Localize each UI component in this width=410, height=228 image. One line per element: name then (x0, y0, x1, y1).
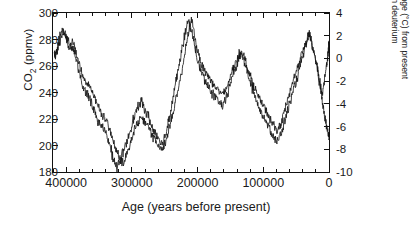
tick-mark (324, 126, 329, 127)
y-axis-right-label: Temperature change (°C) from present bas… (389, 0, 408, 104)
x-tick-label: 100000 (242, 176, 284, 190)
plot-area (52, 12, 330, 173)
tick-mark (92, 13, 93, 16)
tick-mark (79, 13, 80, 16)
y-tick-label-right: -4 (336, 98, 364, 110)
tick-mark (223, 13, 224, 16)
tick-mark (276, 169, 277, 172)
tick-mark (237, 169, 238, 172)
y-tick-label-right: -2 (336, 75, 364, 87)
tick-mark (302, 13, 303, 16)
tick-mark (197, 13, 198, 16)
tick-mark (118, 13, 119, 16)
y-tick-label-left: 300 (12, 7, 58, 19)
tick-mark (210, 13, 211, 16)
tick-mark (158, 169, 159, 172)
tick-mark (131, 169, 132, 172)
tick-mark (79, 169, 80, 172)
tick-mark (184, 13, 185, 16)
y-tick-label-right: 0 (336, 52, 364, 64)
tick-mark (197, 169, 198, 172)
tick-mark (250, 13, 251, 16)
tick-mark (302, 169, 303, 172)
tick-mark (324, 58, 329, 59)
tick-mark (171, 169, 172, 172)
data-curves (53, 13, 329, 172)
tick-mark (105, 169, 106, 172)
tick-mark (276, 13, 277, 16)
y-axis-right-label-line1: Temperature change (°C) from present (399, 0, 409, 104)
tick-mark (289, 13, 290, 16)
y-tick-label-right: -6 (336, 121, 364, 133)
tick-mark (324, 81, 329, 82)
y-tick-label-right: -10 (336, 166, 364, 178)
y-tick-label-right: -8 (336, 143, 364, 155)
y-tick-label-left: 200 (12, 140, 58, 152)
y-tick-label-left: 220 (12, 113, 58, 125)
x-axis-label: Age (years before present) (0, 200, 392, 214)
tick-mark (131, 13, 132, 16)
tick-mark (263, 13, 264, 16)
tick-mark (315, 169, 316, 172)
tick-mark (92, 169, 93, 172)
tick-mark (53, 13, 54, 16)
tick-mark (223, 169, 224, 172)
tick-mark (237, 13, 238, 16)
tick-mark (158, 13, 159, 16)
y-tick-label-left: 260 (12, 60, 58, 72)
y-axis-right-label-line2: based on deuterium (389, 0, 399, 104)
tick-mark (289, 169, 290, 172)
y-tick-label-right: 4 (336, 7, 364, 19)
tick-mark (171, 13, 172, 16)
tick-mark (184, 169, 185, 172)
series-line (54, 17, 329, 166)
series-line (54, 19, 329, 172)
y-tick-label-left: 240 (12, 87, 58, 99)
tick-mark (66, 13, 67, 16)
tick-mark (145, 13, 146, 16)
tick-mark (53, 169, 54, 172)
tick-mark (66, 169, 67, 172)
tick-mark (145, 169, 146, 172)
tick-mark (105, 13, 106, 16)
x-tick-label: 300000 (111, 176, 153, 190)
tick-mark (250, 169, 251, 172)
x-tick-label: 400000 (45, 176, 87, 190)
tick-mark (263, 169, 264, 172)
tick-mark (324, 103, 329, 104)
tick-mark (324, 35, 329, 36)
tick-mark (315, 13, 316, 16)
tick-mark (118, 169, 119, 172)
tick-mark (210, 169, 211, 172)
y-tick-label-right: 2 (336, 30, 364, 42)
x-tick-label: 200000 (177, 176, 219, 190)
tick-mark (329, 169, 330, 172)
x-tick-label: 0 (326, 176, 333, 190)
y-tick-label-left: 280 (12, 34, 58, 46)
tick-mark (329, 13, 330, 16)
tick-mark (324, 149, 329, 150)
